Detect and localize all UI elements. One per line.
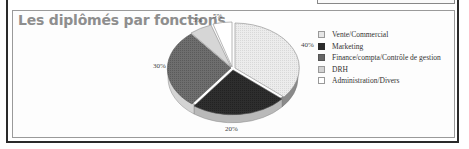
swatch-icon	[318, 66, 325, 73]
legend-label: Vente/Commercial	[332, 30, 388, 39]
swatch-icon	[318, 31, 325, 38]
label-vente: 40%	[301, 41, 314, 49]
chart-legend: Vente/Commercial Marketing Finance/compt…	[318, 29, 441, 87]
legend-label: Administration/Divers	[332, 76, 400, 85]
swatch-icon	[318, 43, 325, 50]
legend-label: DRH	[332, 65, 348, 74]
legend-item-marketing: Marketing	[318, 41, 441, 53]
legend-label: Marketing	[332, 42, 363, 51]
legend-label: Finance/compta/Contrôle de gestion	[332, 53, 441, 62]
label-admin: 5%	[213, 12, 223, 20]
label-drh: 5%	[193, 16, 203, 24]
legend-item-finance: Finance/compta/Contrôle de gestion	[318, 52, 441, 64]
legend-item-admin: Administration/Divers	[318, 75, 441, 87]
label-marketing: 20%	[225, 125, 238, 133]
legend-item-vente: Vente/Commercial	[318, 29, 441, 41]
pie-slices	[167, 22, 299, 115]
swatch-icon	[318, 54, 325, 61]
label-finance: 30%	[153, 62, 166, 70]
legend-item-drh: DRH	[318, 64, 441, 76]
swatch-icon	[318, 77, 325, 84]
